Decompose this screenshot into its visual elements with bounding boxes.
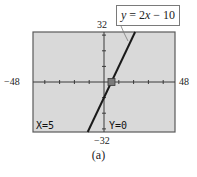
calculator-graph-figure: −48 48 32 −32 X=5 Y=0 y = 2x − 10 (a) <box>0 0 197 177</box>
y-max-label: 32 <box>97 20 107 30</box>
x-min-label: −48 <box>4 77 20 87</box>
readout-x: X=5 <box>36 121 54 131</box>
trace-cursor <box>108 79 115 86</box>
equation-label: y = 2x − 10 <box>117 6 179 25</box>
figure-caption: (a) <box>0 148 197 163</box>
equation-equals: = 2 <box>126 8 145 23</box>
x-max-label: 48 <box>179 77 189 87</box>
equation-rest: − 10 <box>150 8 175 23</box>
readout-y: Y=0 <box>109 121 127 131</box>
equation-label-box: y = 2x − 10 <box>116 5 180 26</box>
y-min-label: −32 <box>94 136 110 146</box>
